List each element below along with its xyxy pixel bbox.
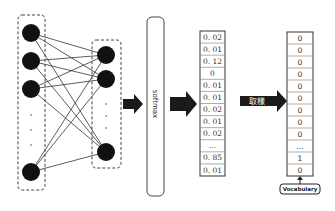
connections xyxy=(31,33,106,172)
probability-cell: 0. 02 xyxy=(203,33,222,42)
hidden-node xyxy=(97,70,115,88)
hidden-node xyxy=(97,143,115,161)
one-hot-cell: 0 xyxy=(298,34,303,43)
one-hot-cell: 0 xyxy=(298,130,303,139)
ellipsis-dot xyxy=(105,127,107,129)
ellipsis-dot xyxy=(30,144,32,146)
probability-cell: 0. 12 xyxy=(203,57,222,66)
input-nodes xyxy=(22,24,40,181)
one-hot-cell: 0 xyxy=(298,118,303,127)
one-hot-cell: 0 xyxy=(298,46,303,55)
connection-line xyxy=(31,55,106,172)
probability-cell: 0 xyxy=(210,69,215,78)
one-hot-cell: 0 xyxy=(298,70,303,79)
ellipsis-dot xyxy=(30,114,32,116)
vocabulary-label: Vocabulary xyxy=(283,186,318,193)
neural-network-sampling-diagram: softmax 0. 020. 010. 1200. 010. 010. 020… xyxy=(0,0,335,211)
sampling-label: 取樣 xyxy=(249,96,265,106)
input-node xyxy=(22,52,40,70)
input-node xyxy=(22,80,40,98)
connection-line xyxy=(31,61,106,79)
one-hot-cell: 0 xyxy=(298,58,303,67)
one-hot-cell: 0 xyxy=(298,82,303,91)
probability-cell: 0. 85 xyxy=(203,153,222,162)
one-hot-cell: 0 xyxy=(298,106,303,115)
probability-cell: 0. 01 xyxy=(203,81,222,90)
connection-line xyxy=(31,33,106,55)
softmax-label: softmax xyxy=(151,90,159,118)
input-node xyxy=(22,24,40,42)
probability-cell: 0. 01 xyxy=(203,45,222,54)
one-hot-cell: ... xyxy=(296,142,303,151)
input-node xyxy=(22,163,40,181)
ellipsis-dot xyxy=(105,103,107,105)
one-hot-cell: 0 xyxy=(298,166,303,175)
one-hot-vector: 000000000...10 xyxy=(287,32,313,176)
one-hot-cell: 0 xyxy=(298,94,303,103)
ellipsis-dot xyxy=(30,129,32,131)
probability-cell: 0. 01 xyxy=(203,93,222,102)
vocab-pointer-icon xyxy=(297,176,303,180)
arrow-icon xyxy=(123,94,143,114)
hidden-node xyxy=(97,46,115,64)
connection-line xyxy=(31,89,106,152)
probability-cell: 0. 02 xyxy=(203,105,222,114)
arrow-icon xyxy=(170,91,197,117)
connection-line xyxy=(31,61,106,152)
probability-cell: 0. 02 xyxy=(203,129,222,138)
probability-cell: 0. 01 xyxy=(203,166,222,175)
probability-cell: ... xyxy=(209,141,216,150)
probability-vector: 0. 020. 010. 1200. 010. 010. 020. 010. 0… xyxy=(200,31,225,176)
ellipsis-dot xyxy=(105,115,107,117)
probability-cell: 0. 01 xyxy=(203,117,222,126)
one-hot-cell: 1 xyxy=(298,154,303,163)
